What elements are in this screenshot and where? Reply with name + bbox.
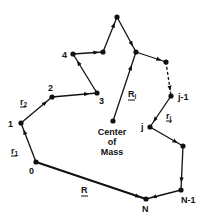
node-label-j-minus-1: j-1 [177,92,189,102]
node-label-2: 2 [48,83,53,93]
arrow-head-icon [78,63,79,65]
bead-0 [33,159,38,164]
vector-label-R: R [81,185,88,196]
node-label-3: 3 [99,96,104,106]
bead-jp1 [180,143,185,148]
radius-vector-Rl [113,52,136,121]
bead-4 [70,51,75,56]
bond-vector-r4 [73,54,97,93]
node-label-4: 4 [62,50,67,60]
node-label-N: N [142,204,149,214]
bead-1 [18,120,23,125]
bead-8 [163,59,168,64]
bond-vector-rN [146,190,181,199]
bead-6 [114,14,119,19]
bead-5 [100,49,105,54]
svg-text:r1: r1 [11,146,19,157]
bead-7 [133,49,138,54]
bond-vector-r7 [117,17,136,52]
bead-2 [49,94,54,99]
node-label-j: j [140,122,144,132]
bead-jm1 [168,93,173,98]
bond-vector-dashed [166,62,171,96]
arrow-head-icon [44,103,46,104]
bond-vector-r3 [52,93,97,97]
chain-bonds [21,17,183,199]
arrow-head-icon [113,25,114,27]
vector-label-Rl: Rl [128,89,137,100]
bead-N [143,196,148,201]
bond-vector-rj1 [150,127,183,146]
svg-text:r2: r2 [20,97,28,108]
bead-j [147,124,152,129]
node-label-0: 0 [29,166,34,176]
node-label-1: 1 [8,119,13,129]
center-of-mass-label-line2: of [108,137,117,147]
svg-text:Rl: Rl [128,89,137,100]
chain-beads [18,14,185,201]
polymer-chain-diagram: 0 1 2 3 4 j-1 j N-1 N Center of Mass r1 … [0,0,207,222]
bond-vector-rj2 [181,146,183,190]
center-of-mass-label-line3: Mass [101,147,124,157]
vector-label-r1: r1 [11,146,19,157]
arrow-head-icon [24,132,25,134]
vector-label-r2: r2 [20,97,28,108]
center-of-mass-point [110,118,115,123]
bond-vector-r5 [73,52,103,54]
bond-vector-r8 [136,52,166,62]
bead-Nm1 [178,187,183,192]
end-to-end-vector-R [36,162,146,199]
bond-vector-r1 [21,123,36,162]
vector-label-rj: rj [166,111,172,123]
arrow-head-icon [130,67,131,70]
bead-3 [94,90,99,95]
node-label-N-minus-1: N-1 [181,195,196,205]
svg-text:R: R [81,185,88,195]
arrow-head-icon [158,59,160,60]
center-of-mass-label-line1: Center [98,127,127,137]
bond-vector-r6 [103,17,117,52]
